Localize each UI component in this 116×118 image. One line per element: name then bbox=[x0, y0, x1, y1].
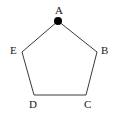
vertex-label-a: A bbox=[55, 5, 63, 16]
pentagon-outline bbox=[22, 21, 97, 95]
pentagon-svg-canvas bbox=[0, 0, 116, 118]
vertex-label-c: C bbox=[84, 99, 91, 110]
pentagon-diagram: A B C D E bbox=[0, 0, 116, 118]
vertex-label-d: D bbox=[29, 99, 37, 110]
vertex-label-b: B bbox=[101, 45, 108, 56]
vertex-label-e: E bbox=[10, 45, 17, 56]
vertex-marker-a-dot-icon bbox=[54, 17, 62, 25]
